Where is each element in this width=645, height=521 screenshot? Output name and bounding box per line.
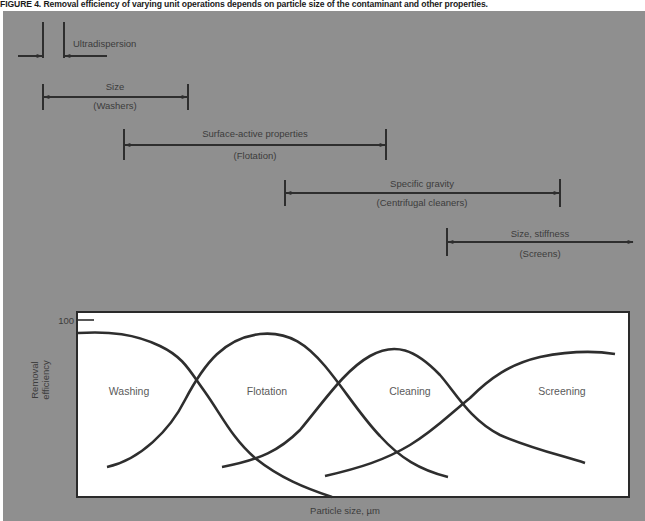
y-axis-label: Removal efficiency <box>29 360 51 400</box>
y-tick-label: 100 <box>58 315 74 326</box>
x-axis-label: Particle size, µm <box>310 505 380 516</box>
range-cleaners: Specific gravity (Centrifugal cleaners) <box>285 178 560 208</box>
curve-label-washing: Washing <box>109 385 150 397</box>
svg-text:Removal: Removal <box>29 361 40 399</box>
range-property-label: Size <box>106 81 124 92</box>
range-operation-label: (Screens) <box>519 248 560 259</box>
curve-label-flotation: Flotation <box>247 385 287 397</box>
range-property-label: Ultradispersion <box>73 38 136 49</box>
curve-label-cleaning: Cleaning <box>389 385 431 397</box>
range-screens: Size, stiffness (Screens) <box>447 228 633 259</box>
range-flotation: Surface-active properties (Flotation) <box>124 128 386 161</box>
efficiency-chart: 100 Removal efficiency Washing Flotation… <box>29 312 629 516</box>
range-property-label: Specific gravity <box>390 178 454 189</box>
range-property-label: Size, stiffness <box>511 228 570 239</box>
range-operation-label: (Centrifugal cleaners) <box>377 197 468 208</box>
range-washers: Size (Washers) <box>43 81 188 111</box>
range-ultradispersion: Ultradispersion <box>18 22 136 58</box>
range-property-label: Surface-active properties <box>202 128 308 139</box>
curve-label-screening: Screening <box>538 385 585 397</box>
range-operation-label: (Washers) <box>93 100 136 111</box>
range-operation-label: (Flotation) <box>234 150 277 161</box>
svg-text:efficiency: efficiency <box>40 360 51 400</box>
figure-svg: Ultradispersion Size (Washers) Surface-a… <box>0 0 645 521</box>
